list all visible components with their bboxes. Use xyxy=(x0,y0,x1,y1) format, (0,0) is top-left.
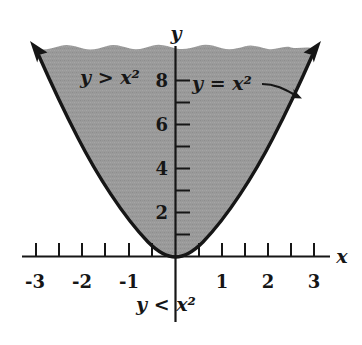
region-label-below: y < x² xyxy=(135,293,196,315)
x-tick-label-1: 1 xyxy=(216,271,229,292)
x-tick-label--3: -3 xyxy=(25,271,45,292)
x-tick-label-2: 2 xyxy=(262,271,275,292)
curve-label: y = x² xyxy=(191,72,252,94)
y-tick-label-2: 2 xyxy=(155,202,168,223)
y-tick-label-4: 4 xyxy=(155,158,168,179)
y-axis-label: y xyxy=(169,22,183,44)
x-tick-label--1: -1 xyxy=(119,271,139,292)
x-tick-label--2: -2 xyxy=(72,271,92,292)
x-axis-label: x xyxy=(335,245,348,267)
graph-canvas: y x -3 -2 -1 1 2 3 2 4 6 8 y > x² y = x²… xyxy=(0,0,362,345)
y-tick-label-6: 6 xyxy=(155,114,168,135)
x-tick-label-3: 3 xyxy=(308,271,321,292)
y-tick-label-8: 8 xyxy=(155,70,168,91)
region-label-above: y > x² xyxy=(79,66,140,88)
parabola-inequality-figure: y x -3 -2 -1 1 2 3 2 4 6 8 y > x² y = x²… xyxy=(0,0,362,345)
